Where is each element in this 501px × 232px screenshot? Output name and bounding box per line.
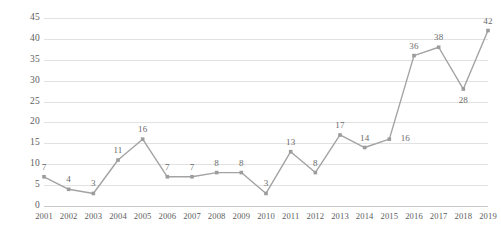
data-point-marker [141, 137, 145, 141]
data-point-label: 13 [276, 138, 306, 147]
y-tick-label: 15 [14, 138, 40, 148]
data-point-marker [190, 175, 194, 179]
data-point-marker [462, 87, 466, 91]
data-point-marker [486, 29, 490, 33]
data-point-label: 11 [103, 146, 133, 155]
data-point-marker [42, 175, 46, 179]
data-point-marker [412, 54, 416, 58]
data-point-label: 38 [424, 33, 454, 42]
data-point-marker [363, 146, 367, 150]
y-tick-label: 10 [14, 159, 40, 169]
y-tick-label: 5 [14, 180, 40, 190]
data-point-marker [92, 192, 96, 196]
plot-area: 74311167788313817141636382842 [44, 18, 488, 206]
data-point-marker [437, 45, 441, 49]
data-point-label: 42 [473, 17, 501, 26]
data-point-label: 17 [325, 121, 355, 130]
data-point-marker [338, 133, 342, 137]
data-point-label: 14 [350, 134, 380, 143]
data-point-label: 8 [226, 159, 256, 168]
x-axis-line [44, 206, 488, 207]
y-tick-label: 20 [14, 117, 40, 127]
data-point-label: 28 [448, 96, 478, 105]
data-point-label: 8 [300, 159, 330, 168]
data-point-marker [166, 175, 170, 179]
y-tick-label: 25 [14, 97, 40, 107]
y-tick-label: 35 [14, 55, 40, 65]
data-point-marker [215, 171, 219, 175]
x-tick-label: 2019 [471, 212, 501, 221]
data-point-label: 36 [399, 42, 429, 51]
line-chart: 74311167788313817141636382842 0510152025… [0, 0, 501, 232]
y-tick-label: 45 [14, 13, 40, 23]
series-polyline [44, 31, 488, 194]
data-point-marker [264, 192, 268, 196]
data-point-marker [240, 171, 244, 175]
data-point-marker [314, 171, 318, 175]
data-point-label: 16 [390, 134, 420, 143]
y-tick-label: 0 [14, 201, 40, 211]
data-point-marker [116, 158, 120, 162]
data-point-label: 3 [251, 179, 281, 188]
data-point-marker [289, 150, 293, 154]
y-tick-label: 30 [14, 76, 40, 86]
data-point-label: 16 [128, 125, 158, 134]
y-tick-label: 40 [14, 34, 40, 44]
data-point-label: 3 [78, 179, 108, 188]
data-point-marker [67, 187, 71, 191]
